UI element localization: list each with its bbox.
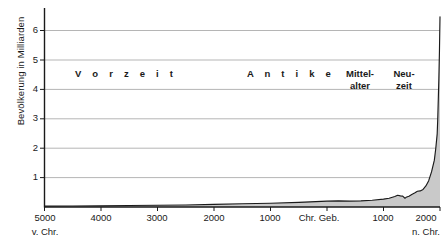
x-tick-label-chr-geb: Chr. Geb. <box>279 212 359 223</box>
y-axis-label: Bevölkerung in Milliarden <box>15 0 29 151</box>
y-tick-label-5: 5 <box>16 54 38 65</box>
era-label-vorzeit: V o r z e i t <box>46 68 206 79</box>
era-label-antike: A n t i k e <box>243 68 339 79</box>
x-tick-label-2000-bc: 2000 <box>192 212 236 223</box>
x-axis-sublabel-bc: v. Chr. <box>23 226 67 237</box>
gridlines <box>44 31 440 178</box>
era-label-neuzeit-line2: zeit <box>385 80 423 91</box>
y-tick-label-2: 2 <box>16 142 38 153</box>
x-tick-label-5000-bc: 5000 <box>23 212 67 223</box>
y-tick-marks <box>40 31 44 178</box>
era-label-neuzeit-line1: Neu- <box>385 68 423 79</box>
x-axis-sublabel-ad: n. Chr. <box>404 226 447 237</box>
y-tick-label-1: 1 <box>16 171 38 182</box>
population-area-chart: Bevölkerung in Milliarden 6 5 4 3 2 1 50… <box>0 0 447 252</box>
y-tick-label-3: 3 <box>16 112 38 123</box>
y-tick-label-4: 4 <box>16 83 38 94</box>
era-label-mittelalter-line1: Mittel- <box>336 68 384 79</box>
y-tick-label-6: 6 <box>16 24 38 35</box>
population-area-fill <box>45 17 441 207</box>
x-tick-label-4000-bc: 4000 <box>79 212 123 223</box>
x-tick-label-2000-ad: 2000 <box>404 212 447 223</box>
x-tick-label-1000-ad: 1000 <box>361 212 405 223</box>
x-tick-label-3000-bc: 3000 <box>135 212 179 223</box>
era-label-mittelalter-line2: alter <box>336 80 384 91</box>
